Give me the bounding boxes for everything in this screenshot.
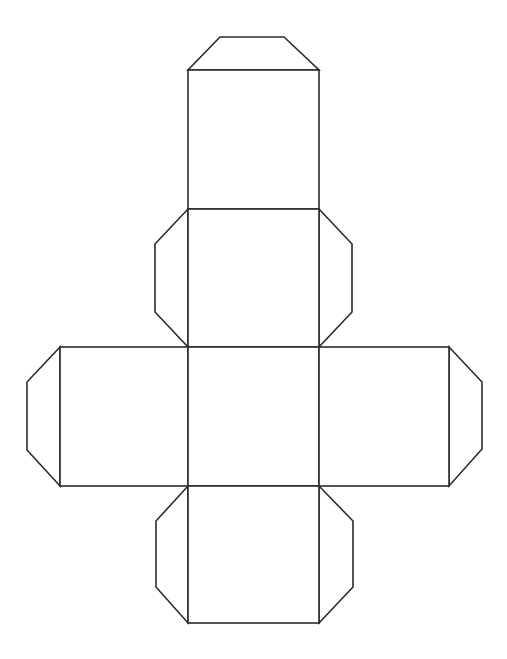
tab-lower-right (319, 486, 353, 623)
face-upper-middle (188, 209, 319, 347)
tab-top (188, 37, 319, 70)
tab-lower-left (156, 486, 188, 623)
tab-upper-right (319, 209, 352, 347)
face-bottom (188, 486, 319, 623)
tab-far-right (449, 347, 482, 486)
face-top (188, 70, 319, 209)
tab-far-left (27, 347, 60, 486)
face-center (188, 347, 319, 486)
cube-faces (60, 70, 449, 623)
cube-net-diagram (0, 0, 507, 659)
tab-upper-left (155, 209, 188, 347)
face-right (319, 347, 449, 486)
face-left (60, 347, 188, 486)
